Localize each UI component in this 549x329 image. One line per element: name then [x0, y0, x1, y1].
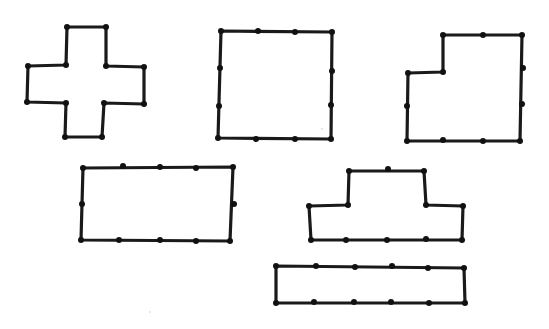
- long-bar-outline: [276, 266, 465, 303]
- vertex-dot: [80, 165, 86, 171]
- vertex-dot: [64, 24, 70, 30]
- rectangle-outline: [81, 167, 233, 241]
- vertex-dot: [404, 103, 410, 109]
- cross-pentomino-outline: [27, 27, 144, 137]
- vertex-dot: [103, 63, 109, 69]
- vertex-dot: [116, 237, 122, 243]
- long-bar: [273, 263, 468, 306]
- speck: [321, 128, 323, 130]
- vertex-dot: [351, 299, 357, 305]
- vertex-dot: [24, 99, 30, 105]
- vertex-dot: [519, 101, 525, 107]
- vertex-dot: [405, 70, 411, 76]
- vertex-dot: [292, 29, 298, 35]
- vertex-dot: [79, 201, 85, 207]
- vertex-dot: [230, 164, 236, 170]
- vertex-dot: [425, 265, 431, 271]
- vertex-dot: [423, 236, 429, 242]
- rectangle: [78, 163, 237, 244]
- vertex-dot: [101, 100, 107, 106]
- vertex-dot: [157, 237, 163, 243]
- vertex-dot: [231, 201, 237, 207]
- speck: [149, 311, 151, 313]
- vertex-dot: [193, 238, 199, 244]
- vertex-dot: [404, 138, 410, 144]
- vertex-dot: [218, 28, 224, 34]
- vertex-dot: [520, 65, 526, 71]
- vertex-dot: [308, 237, 314, 243]
- t-shape-outline: [309, 171, 463, 240]
- vertex-dot: [255, 28, 261, 34]
- vertex-dot: [311, 299, 317, 305]
- vertex-dot: [273, 263, 279, 269]
- cross-pentomino: [24, 24, 147, 140]
- vertex-dot: [426, 300, 432, 306]
- vertex-dot: [217, 65, 223, 71]
- vertex-dot: [460, 203, 466, 209]
- polyomino-figure: [0, 0, 549, 329]
- vertex-dot: [120, 163, 126, 169]
- vertex-dot: [103, 24, 109, 30]
- vertex-dot: [345, 202, 351, 208]
- vertex-dot: [253, 136, 259, 142]
- vertex-dot: [519, 32, 525, 38]
- vertex-dot: [329, 68, 335, 74]
- square-outline: [218, 31, 332, 139]
- square: [215, 28, 335, 142]
- vertex-dot: [328, 102, 334, 108]
- l-shape: [404, 32, 526, 144]
- vertex-dot: [273, 300, 279, 306]
- vertex-dot: [389, 263, 395, 269]
- vertex-dot: [462, 300, 468, 306]
- l-shape-outline: [407, 35, 522, 141]
- vertex-dot: [193, 165, 199, 171]
- vertex-dot: [346, 168, 352, 174]
- vertex-dot: [517, 138, 523, 144]
- vertex-dot: [461, 265, 467, 271]
- vertex-dot: [384, 237, 390, 243]
- vertex-dot: [157, 164, 163, 170]
- vertex-dot: [306, 203, 312, 209]
- vertex-dot: [421, 168, 427, 174]
- vertex-dot: [216, 103, 222, 109]
- shapes-layer: [24, 24, 526, 306]
- vertex-dot: [141, 64, 147, 70]
- vertex-dot: [313, 263, 319, 269]
- vertex-dot: [385, 166, 391, 172]
- vertex-dot: [388, 299, 394, 305]
- scan-specks: [149, 128, 323, 313]
- vertex-dot: [25, 63, 31, 69]
- vertex-dot: [440, 32, 446, 38]
- vertex-dot: [62, 134, 68, 140]
- vertex-dot: [329, 29, 335, 35]
- vertex-dot: [440, 69, 446, 75]
- vertex-dot: [227, 238, 233, 244]
- t-shape: [306, 166, 466, 243]
- vertex-dot: [63, 62, 69, 68]
- vertex-dot: [480, 138, 486, 144]
- vertex-dot: [459, 237, 465, 243]
- vertex-dot: [440, 137, 446, 143]
- vertex-dot: [328, 136, 334, 142]
- vertex-dot: [215, 135, 221, 141]
- vertex-dot: [343, 237, 349, 243]
- vertex-dot: [423, 202, 429, 208]
- vertex-dot: [78, 237, 84, 243]
- vertex-dot: [99, 134, 105, 140]
- vertex-dot: [63, 100, 69, 106]
- vertex-dot: [480, 32, 486, 38]
- vertex-dot: [141, 101, 147, 107]
- vertex-dot: [292, 136, 298, 142]
- vertex-dot: [352, 264, 358, 270]
